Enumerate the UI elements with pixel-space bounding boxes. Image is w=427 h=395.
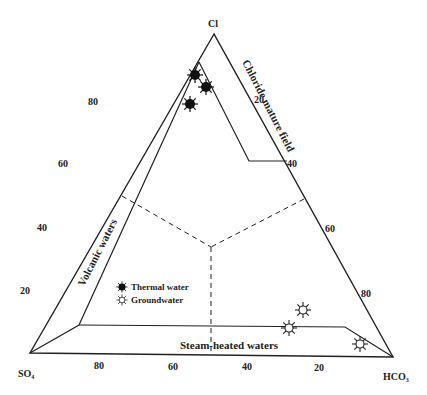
tick-bottom-60: 60: [168, 361, 178, 372]
tick-right-60: 60: [325, 223, 335, 234]
ternary-diagram: Cl SO4 HCO3 80 60 40 20 20 40 60 80 80 6…: [0, 0, 427, 395]
thermal-point-icon: [182, 96, 198, 112]
thermal-point-icon: [198, 79, 214, 95]
tick-right-80: 80: [361, 288, 371, 299]
thermal-point-icon: [187, 67, 203, 83]
vertex-label-cl: Cl: [208, 18, 218, 29]
legend-groundwater-label: Groundwater: [131, 295, 183, 305]
vertex-label-so4: SO4: [18, 368, 34, 380]
triangle-outline: [30, 34, 393, 357]
field-label-chloride: Chloride mature field: [240, 57, 297, 153]
legend-thermal-icon: [116, 281, 127, 292]
tick-left-60: 60: [58, 158, 68, 169]
dashed-divider-lines: [122, 196, 304, 353]
legend-groundwater-icon: [116, 294, 127, 305]
tick-right-40: 40: [287, 158, 297, 169]
tick-left-20: 20: [20, 285, 30, 296]
legend-thermal-label: Thermal water: [131, 282, 189, 292]
groundwater-point-icon: [352, 336, 368, 352]
tick-bottom-40: 40: [242, 361, 252, 372]
field-label-steam: Steam-heated waters: [180, 339, 279, 351]
legend: Thermal water Groundwater: [116, 281, 188, 305]
tick-bottom-80: 80: [94, 360, 104, 371]
groundwater-point-icon: [295, 302, 311, 318]
groundwater-point-icon: [281, 320, 297, 336]
tick-left-40: 40: [37, 222, 47, 233]
tick-bottom-20: 20: [314, 362, 324, 373]
vertex-label-hco3: HCO3: [383, 371, 409, 383]
tick-left-80: 80: [88, 96, 98, 107]
